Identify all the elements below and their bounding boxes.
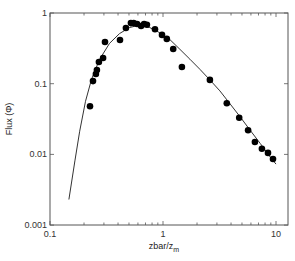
flux-chart: 0.11100.0010.010.11 Flux (Φ) zbar/zm xyxy=(0,0,295,261)
data-point xyxy=(224,100,231,107)
data-point xyxy=(152,26,159,33)
y-tick-label: 0.001 xyxy=(24,220,47,230)
x-axis-label-main: zbar/z xyxy=(149,241,174,251)
data-point xyxy=(265,150,272,157)
x-axis-label: zbar/zm xyxy=(149,241,180,253)
data-point xyxy=(123,25,130,32)
data-point xyxy=(270,156,277,163)
data-point xyxy=(207,77,214,84)
x-tick-label: 10 xyxy=(271,229,281,239)
axis-ticks xyxy=(50,13,288,225)
x-tick-label: 1 xyxy=(160,229,165,239)
data-point xyxy=(236,114,243,121)
data-point xyxy=(170,46,177,53)
data-point xyxy=(87,103,94,110)
plot-border xyxy=(50,13,288,225)
plot-frame xyxy=(50,13,288,225)
data-point xyxy=(144,22,151,29)
x-tick-label: 0.1 xyxy=(44,229,57,239)
y-tick-label: 0.01 xyxy=(29,149,47,159)
axis-tick-labels: 0.11100.0010.010.11 xyxy=(24,8,281,239)
data-point xyxy=(100,55,107,62)
data-point xyxy=(259,146,266,153)
data-point xyxy=(102,39,109,46)
x-axis-label-subscript: m xyxy=(173,246,179,253)
data-point xyxy=(90,78,97,85)
data-point xyxy=(117,37,124,44)
data-point xyxy=(164,36,171,43)
y-axis-label: Flux (Φ) xyxy=(4,103,14,136)
data-points xyxy=(87,20,277,163)
y-tick-label: 1 xyxy=(42,8,47,18)
y-tick-label: 0.1 xyxy=(34,79,47,89)
data-point xyxy=(179,64,186,71)
data-point xyxy=(252,139,259,146)
data-point xyxy=(245,127,252,134)
data-point xyxy=(94,67,101,74)
